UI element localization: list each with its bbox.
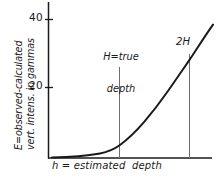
figure-container: 40 20 E=observed-calculated vert. intens…: [0, 0, 216, 180]
y-axis-label-line-1: E=observed-calculated: [13, 41, 24, 150]
y-axis-label: E=observed-calculated vert. intens. in g…: [0, 0, 46, 158]
annotation-true-depth-line-2: depth: [95, 84, 147, 95]
annotation-true-depth: H=true depth: [95, 31, 147, 116]
annotation-double-depth: 2H: [176, 36, 190, 47]
annotation-true-depth-line-1: H=true: [95, 52, 147, 63]
y-axis-label-line-2: vert. intens. in gammas: [25, 38, 36, 150]
x-axis-label: h = estimated depth: [52, 161, 162, 172]
